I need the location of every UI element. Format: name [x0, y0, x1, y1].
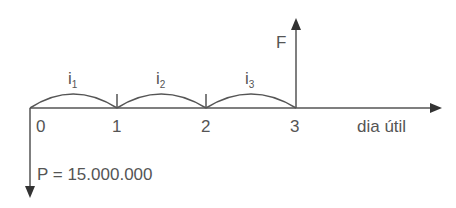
present-value-label: P = 15.000.000	[37, 166, 153, 183]
tick-label-1: 1	[112, 118, 121, 135]
axis-label: dia útil	[357, 118, 406, 135]
rate-label-2: i2	[156, 70, 165, 90]
future-value-label: F	[276, 34, 286, 51]
rate-arc-2	[117, 94, 206, 108]
axis-arrowhead-icon	[430, 103, 442, 113]
tick-label-3: 3	[290, 118, 299, 135]
tick-label-2: 2	[201, 118, 210, 135]
rate-label-3: i3	[245, 70, 254, 90]
rate-arc-1	[30, 94, 117, 108]
tick-label-0: 0	[36, 118, 45, 135]
rate-label-1: i1	[68, 70, 77, 90]
future-arrowhead-icon	[291, 18, 301, 30]
rate-arc-3	[206, 94, 296, 108]
present-arrowhead-icon	[25, 186, 35, 198]
